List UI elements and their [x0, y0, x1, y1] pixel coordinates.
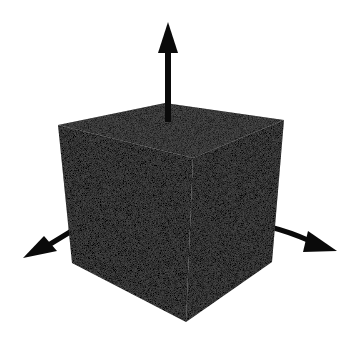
cube-left-face — [58, 125, 193, 322]
cube — [58, 103, 284, 322]
right-axis-arrow-icon — [270, 227, 337, 252]
left-axis-arrow-icon — [23, 232, 70, 258]
cube-diagram — [0, 0, 357, 352]
cube-axes-illustration — [0, 0, 357, 352]
